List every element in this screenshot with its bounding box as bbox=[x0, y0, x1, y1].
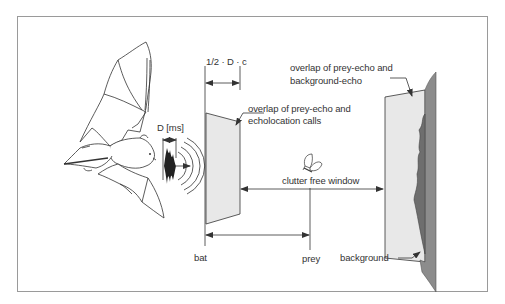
diagram-canvas: 1/2 · D · c D [ms] overlap of prey-echo … bbox=[0, 0, 505, 304]
clutter-free-window-label: clutter free window bbox=[282, 175, 359, 187]
overlap-calls-region bbox=[206, 113, 240, 224]
overlap-calls-label-line1: overlap of prey-echo and bbox=[248, 103, 351, 115]
diagram-svg bbox=[0, 0, 505, 304]
overlap-background-label-line2: background-echo bbox=[290, 75, 362, 87]
background-label: background bbox=[340, 252, 389, 264]
prey-label: prey bbox=[302, 253, 320, 265]
duration-label: D [ms] bbox=[157, 122, 184, 134]
half-dc-label: 1/2 · D · c bbox=[206, 56, 247, 68]
bat-label: bat bbox=[194, 252, 207, 264]
overlap-calls-label-line2: echolocation calls bbox=[248, 115, 321, 127]
overlap-background-label-line1: overlap of prey-echo and bbox=[290, 62, 393, 74]
